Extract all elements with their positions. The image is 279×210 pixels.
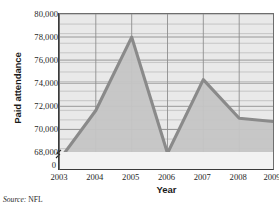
chart-figure: Paid attendance 80,000 78,000 76,000 74,…: [0, 0, 279, 210]
y-tick-label: 80,000: [16, 10, 58, 18]
y-tick-label: 68,000: [16, 148, 58, 156]
x-tick-label: 2005: [122, 172, 139, 182]
source-value: NFL: [28, 195, 42, 204]
y-tick-label: 78,000: [16, 33, 58, 41]
y-tick-label: 76,000: [16, 56, 58, 64]
y-axis-line: [58, 13, 59, 170]
plot-area: [59, 13, 274, 163]
x-tick-label: 2006: [158, 172, 175, 182]
x-tick-label: 2007: [194, 172, 211, 182]
x-axis-title: Year: [59, 184, 274, 195]
chart-canvas: [60, 14, 274, 163]
y-tick-label: 70,000: [16, 125, 58, 133]
x-axis-tick-labels: 2003 2004 2005 2006 2007 2008 2009: [59, 172, 274, 184]
source-label: Source:: [3, 195, 26, 204]
y-tick-label: 72,000: [16, 102, 58, 110]
source-note: Source: NFL: [3, 195, 43, 204]
x-tick-label: 2008: [230, 172, 247, 182]
axis-break-band: [59, 152, 274, 170]
x-tick-label: 2009: [263, 172, 279, 182]
x-tick-label: 2004: [86, 172, 103, 182]
x-tick-label: 2003: [50, 172, 67, 182]
y-tick-label: 74,000: [16, 79, 58, 87]
y-tick-label-zero: 0: [14, 160, 56, 170]
